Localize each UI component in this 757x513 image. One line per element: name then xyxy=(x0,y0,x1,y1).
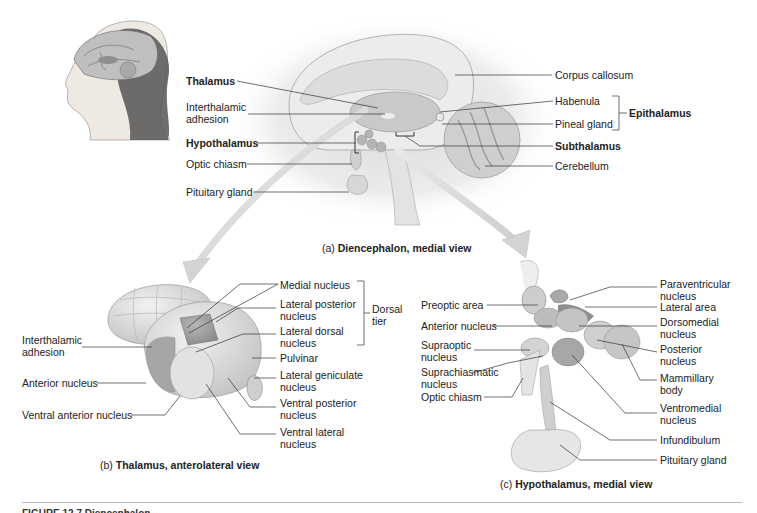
label-pulvinar: Pulvinar xyxy=(280,352,318,364)
figure-caption-cut: FIGURE 12.7 Diencephalon. xyxy=(22,508,153,513)
label-mammillary-body: Mammillary body xyxy=(660,372,714,396)
head-thumbnail-illustration xyxy=(66,21,170,140)
label-corpus-callosum: Corpus callosum xyxy=(555,69,633,81)
figure-divider xyxy=(22,502,742,503)
label-anterior-nucleus-b: Anterior nucleus xyxy=(22,377,98,389)
label-habenula: Habenula xyxy=(555,95,600,107)
label-epithalamus: Epithalamus xyxy=(629,107,691,119)
label-interthalamic-adhesion-b: Interthalamic adhesion xyxy=(22,334,82,358)
label-cerebellum: Cerebellum xyxy=(555,160,609,172)
label-lateral-area: Lateral area xyxy=(660,301,716,313)
label-medial-nucleus: Medial nucleus xyxy=(280,279,350,291)
caption-panel-c-prefix: (c) xyxy=(500,478,512,490)
caption-panel-c: (c) Hypothalamus, medial view xyxy=(500,478,652,490)
label-pineal-gland: Pineal gland xyxy=(555,118,613,130)
label-dorsomedial-nucleus: Dorsomedial nucleus xyxy=(660,316,719,340)
label-lateral-posterior-nucleus: Lateral posterior nucleus xyxy=(280,298,356,322)
label-dorsal-tier: Dorsal tier xyxy=(372,303,402,327)
label-optic-chiasm-c: Optic chiasm xyxy=(421,391,482,403)
caption-panel-a-prefix: (a) xyxy=(322,242,335,254)
label-infundibulum: Infundibulum xyxy=(660,434,720,446)
figure-artwork xyxy=(0,0,757,513)
label-thalamus: Thalamus xyxy=(186,75,235,87)
label-paraventricular-nucleus: Paraventricular nucleus xyxy=(660,278,731,302)
cerebellum-shape xyxy=(444,102,520,178)
caption-panel-c-title: Hypothalamus, medial view xyxy=(515,478,652,490)
caption-panel-a: (a) Diencephalon, medial view xyxy=(322,242,471,254)
label-pituitary-gland-c: Pituitary gland xyxy=(660,454,727,466)
label-lateral-geniculate-nucleus: Lateral geniculate nucleus xyxy=(280,369,363,393)
label-pituitary-gland-a: Pituitary gland xyxy=(186,186,253,198)
label-hypothalamus: Hypothalamus xyxy=(186,137,258,149)
diencephalon-figure: Thalamus Interthalamic adhesion Hypothal… xyxy=(0,0,757,513)
caption-panel-b-prefix: (b) xyxy=(100,459,113,471)
label-ventral-posterior-nucleus: Ventral posterior nucleus xyxy=(280,397,356,421)
label-supraoptic-nucleus: Supraoptic nucleus xyxy=(421,339,471,363)
label-lateral-dorsal-nucleus: Lateral dorsal nucleus xyxy=(280,325,344,349)
label-interthalamic-adhesion-a: Interthalamic adhesion xyxy=(186,101,246,125)
label-preoptic-area: Preoptic area xyxy=(421,299,483,311)
label-suprachiasmatic-nucleus: Suprachiasmatic nucleus xyxy=(421,366,499,390)
label-anterior-nucleus-c: Anterior nucleus xyxy=(421,320,497,332)
label-ventromedial-nucleus: Ventromedial nucleus xyxy=(660,402,721,426)
caption-panel-a-title: Diencephalon, medial view xyxy=(338,242,472,254)
caption-panel-b: (b) Thalamus, anterolateral view xyxy=(100,459,259,471)
label-ventral-anterior-nucleus: Ventral anterior nucleus xyxy=(22,409,132,421)
caption-panel-b-title: Thalamus, anterolateral view xyxy=(116,459,260,471)
label-optic-chiasm-a: Optic chiasm xyxy=(186,158,247,170)
label-subthalamus: Subthalamus xyxy=(555,140,621,152)
label-posterior-nucleus: Posterior nucleus xyxy=(660,343,702,367)
label-ventral-lateral-nucleus: Ventral lateral nucleus xyxy=(280,426,344,450)
diencephalon-medial-illustration xyxy=(225,15,565,225)
